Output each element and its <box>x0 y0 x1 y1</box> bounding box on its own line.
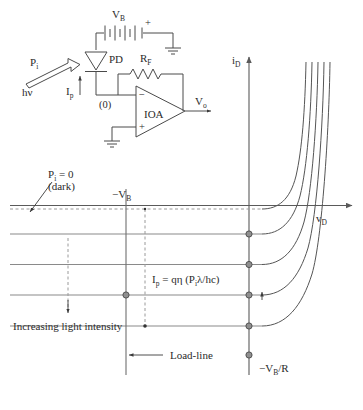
opamp-noninverting-input-label: + <box>139 121 145 132</box>
y-axis-label: iD <box>232 54 241 69</box>
inverting-node-wires <box>96 74 136 95</box>
dark-annotation-pointer <box>30 182 52 212</box>
bias-voltage-label: VB <box>112 8 125 23</box>
load-line-label: Load-line <box>170 349 213 361</box>
increasing-intensity-label: Increasing light intensity <box>13 320 123 332</box>
photodiode-symbol <box>85 52 107 95</box>
illuminated-characteristic-lines <box>10 234 262 326</box>
battery-symbol <box>105 26 142 41</box>
photocurrent-label: Ip <box>66 85 74 100</box>
virtual-ground-label: (0) <box>99 99 112 111</box>
output-voltage-label: Vo <box>195 95 207 110</box>
optical-power-label: Pi <box>30 56 38 71</box>
photon-energy-label: hν <box>22 86 33 98</box>
noninverting-ground-wires <box>104 127 136 147</box>
bottom-axis-dot <box>246 352 252 358</box>
opamp-label: IOA <box>144 108 164 120</box>
ground-symbol-bias <box>165 48 181 54</box>
diode-iv-curves <box>262 62 330 326</box>
photocurrent-equation: Ip = qη (Piλ/hc) <box>152 273 220 288</box>
photodiode-label: PD <box>109 53 123 65</box>
photodiode-figure: VB + PD Pi hν Ip <box>0 0 363 410</box>
bias-polarity-plus: + <box>145 17 151 28</box>
dark-annotation-line2: (dark) <box>48 180 75 193</box>
figure-canvas: VB + PD Pi hν Ip <box>0 0 363 410</box>
feedback-resistor-label: RF <box>140 52 152 67</box>
short-circuit-current-label: −VB/R <box>259 362 289 377</box>
opamp-inverting-input-label: − <box>139 89 145 100</box>
feedback-resistor-symbol <box>130 69 183 111</box>
photocurrent-measure-line <box>143 208 147 328</box>
load-line-voltage-label: −VB <box>112 188 131 203</box>
load-line-operating-point <box>123 292 129 298</box>
